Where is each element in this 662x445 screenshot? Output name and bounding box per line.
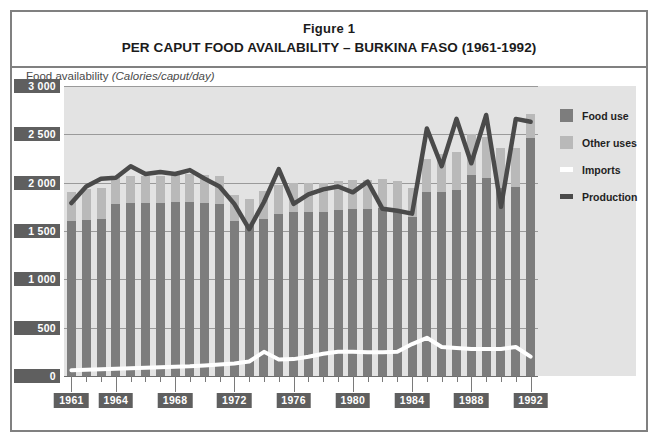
plot-area bbox=[64, 86, 538, 376]
x-tick-minor bbox=[190, 376, 191, 382]
chart-legend: Food useOther usesImportsProduction bbox=[560, 102, 642, 210]
legend-item: Food use bbox=[560, 102, 642, 129]
x-tick-minor bbox=[427, 376, 428, 382]
x-tick-label: 1968 bbox=[158, 393, 193, 408]
y-tick-label: 1 000 bbox=[14, 272, 60, 286]
y-tick-label: 500 bbox=[14, 321, 60, 335]
x-tick-major bbox=[116, 376, 117, 392]
x-tick-minor bbox=[442, 376, 443, 382]
x-tick-minor bbox=[86, 376, 87, 382]
x-tick-minor bbox=[101, 376, 102, 382]
y-tick-label: 1 500 bbox=[14, 224, 60, 238]
legend-swatch-icon bbox=[560, 167, 573, 172]
legend-swatch-icon bbox=[560, 109, 573, 122]
x-tick-minor bbox=[205, 376, 206, 382]
x-tick-label: 1980 bbox=[336, 393, 371, 408]
x-tick-minor bbox=[397, 376, 398, 382]
figure-title: PER CAPUT FOOD AVAILABILITY – BURKINA FA… bbox=[122, 39, 537, 57]
x-tick-major bbox=[353, 376, 354, 392]
chart-body: Food availability (Calories/caput/day) 0… bbox=[12, 68, 646, 432]
x-tick-minor bbox=[279, 376, 280, 382]
x-tick-minor bbox=[338, 376, 339, 382]
x-tick-minor bbox=[457, 376, 458, 382]
imports-line bbox=[71, 338, 530, 370]
legend-item: Imports bbox=[560, 156, 642, 183]
legend-label: Other uses bbox=[582, 137, 637, 149]
x-tick-major bbox=[294, 376, 295, 392]
legend-item: Production bbox=[560, 183, 642, 210]
y-tick-label: 2 000 bbox=[14, 176, 60, 190]
x-tick-minor bbox=[382, 376, 383, 382]
x-tick-major bbox=[175, 376, 176, 392]
x-tick-minor bbox=[249, 376, 250, 382]
y-tick-label: 2 500 bbox=[14, 127, 60, 141]
x-tick-major bbox=[71, 376, 72, 392]
figure-frame: Figure 1 PER CAPUT FOOD AVAILABILITY – B… bbox=[10, 10, 648, 432]
legend-swatch-icon bbox=[560, 136, 573, 149]
x-tick-label: 1988 bbox=[454, 393, 489, 408]
x-tick-major bbox=[234, 376, 235, 392]
legend-item: Other uses bbox=[560, 129, 642, 156]
line-series bbox=[64, 86, 538, 376]
x-tick-label: 1984 bbox=[395, 393, 430, 408]
x-tick-minor bbox=[486, 376, 487, 382]
y-tick-label: 0 bbox=[14, 369, 60, 383]
x-tick-minor bbox=[516, 376, 517, 382]
x-tick-label: 1976 bbox=[276, 393, 311, 408]
x-tick-major bbox=[412, 376, 413, 392]
x-tick-minor bbox=[501, 376, 502, 382]
x-tick-label: 1964 bbox=[99, 393, 134, 408]
figure-title-block: Figure 1 PER CAPUT FOOD AVAILABILITY – B… bbox=[12, 12, 646, 68]
legend-label: Food use bbox=[582, 110, 629, 122]
x-tick-minor bbox=[131, 376, 132, 382]
x-tick-label: 1972 bbox=[217, 393, 252, 408]
y-axis-caption-units: (Calories/caput/day) bbox=[112, 70, 215, 82]
x-axis-line bbox=[64, 376, 538, 377]
x-tick-minor bbox=[264, 376, 265, 382]
x-tick-major bbox=[471, 376, 472, 392]
legend-label: Imports bbox=[582, 164, 621, 176]
x-tick-minor bbox=[368, 376, 369, 382]
y-tick-label: 3 000 bbox=[14, 79, 60, 93]
x-tick-label: 1992 bbox=[513, 393, 548, 408]
production-line bbox=[71, 115, 530, 229]
legend-swatch-icon bbox=[560, 194, 573, 199]
x-tick-label: 1961 bbox=[54, 393, 89, 408]
legend-label: Production bbox=[582, 191, 637, 203]
x-tick-minor bbox=[308, 376, 309, 382]
x-tick-minor bbox=[220, 376, 221, 382]
x-tick-major bbox=[531, 376, 532, 392]
figure-number: Figure 1 bbox=[303, 21, 355, 37]
x-tick-minor bbox=[145, 376, 146, 382]
x-tick-minor bbox=[323, 376, 324, 382]
x-tick-minor bbox=[160, 376, 161, 382]
